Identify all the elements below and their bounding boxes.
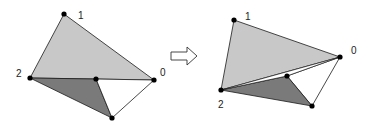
before-label-2: 2 <box>16 68 22 79</box>
after-label-1: 1 <box>245 11 251 22</box>
before-vertex-bottom <box>109 115 114 120</box>
edge-flip-diagram: 1 2 0 1 2 0 <box>0 0 375 125</box>
before-triangle-light <box>30 14 154 80</box>
after-label-2: 2 <box>218 99 224 110</box>
before-vertex-inner <box>93 76 98 81</box>
after-vertex-bottom <box>309 103 314 108</box>
after-vertex-inner <box>284 73 289 78</box>
after-label-0: 0 <box>351 45 357 56</box>
hollow-right-arrow-icon <box>171 47 197 65</box>
before-vertex-1 <box>61 11 66 16</box>
after-vertex-1 <box>231 17 236 22</box>
before-label-0: 0 <box>160 67 166 78</box>
before-vertex-0 <box>151 77 156 82</box>
before-configuration: 1 2 0 <box>16 10 166 121</box>
before-vertex-2 <box>27 75 32 80</box>
after-vertex-0 <box>337 54 342 59</box>
before-label-1: 1 <box>78 10 84 21</box>
after-vertex-2 <box>218 87 223 92</box>
after-configuration: 1 2 0 <box>218 11 357 110</box>
